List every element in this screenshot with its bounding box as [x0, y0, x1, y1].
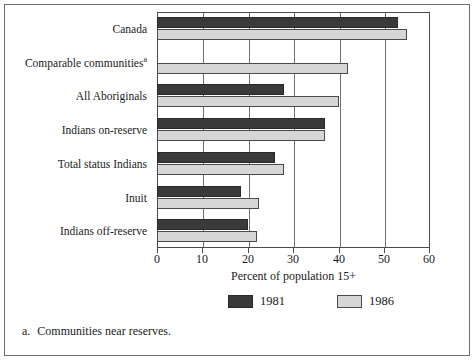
x-tick-label-0: 0 — [137, 252, 177, 266]
legend-label-1981: 1981 — [260, 295, 285, 308]
category-label-comparable-communities: Comparable communitiesa — [0, 57, 147, 69]
chart-figure: Canada Comparable communitiesa All Abori… — [0, 0, 475, 361]
bar-indians-off-reserve-1981 — [157, 219, 248, 230]
x-tick-label-20: 20 — [228, 252, 268, 266]
bar-all-aboriginals-1986 — [157, 96, 339, 107]
category-label-inuit: Inuit — [0, 192, 147, 204]
category-label-total-status-indians: Total status Indians — [0, 158, 147, 170]
x-tick-label-10: 10 — [182, 252, 222, 266]
bar-canada-1986 — [157, 29, 407, 40]
legend-swatch-1986 — [337, 295, 362, 308]
bar-total-status-indians-1986 — [157, 164, 284, 175]
legend-item-1986: 1986 — [337, 295, 394, 308]
bar-group-all-aboriginals — [157, 79, 430, 113]
figure-footnote: a.Communities near reserves. — [22, 324, 171, 339]
bar-inuit-1986 — [157, 198, 259, 209]
x-tick-label-40: 40 — [319, 252, 359, 266]
category-label-text: Comparable communities — [25, 57, 144, 69]
chart-legend: 1981 1986 — [0, 295, 475, 315]
bar-indians-on-reserve-1986 — [157, 130, 325, 141]
plot-wrapper: Canada Comparable communitiesa All Abori… — [0, 0, 475, 361]
category-label-text: Indians off-reserve — [60, 225, 147, 237]
bar-total-status-indians-1981 — [157, 152, 275, 163]
bar-all-aboriginals-1981 — [157, 84, 284, 95]
bar-comparable-communities-1986 — [157, 63, 348, 74]
bar-indians-off-reserve-1986 — [157, 231, 257, 242]
bar-group-comparable-communities — [157, 46, 430, 80]
bar-group-total-status-indians — [157, 147, 430, 181]
bar-rows — [157, 12, 430, 248]
category-label-indians-on-reserve: Indians on-reserve — [0, 124, 147, 136]
legend-swatch-1981 — [228, 295, 253, 308]
bar-group-indians-on-reserve — [157, 113, 430, 147]
category-label-canada: Canada — [0, 23, 147, 35]
bar-group-canada — [157, 12, 430, 46]
x-tick-label-60: 60 — [409, 252, 449, 266]
category-label-indians-off-reserve: Indians off-reserve — [0, 225, 147, 237]
footnote-marker: a. — [22, 324, 30, 338]
category-label-text: Canada — [113, 23, 147, 35]
category-label-text: Inuit — [125, 192, 147, 204]
legend-item-1981: 1981 — [228, 295, 285, 308]
x-tick-label-30: 30 — [273, 252, 313, 266]
category-label-text: Total status Indians — [58, 158, 147, 170]
bar-group-inuit — [157, 181, 430, 215]
category-label-text: All Aboriginals — [76, 90, 147, 102]
legend-label-1986: 1986 — [369, 295, 394, 308]
footnote-marker-superscript: a — [143, 55, 147, 64]
category-label-text: Indians on-reserve — [62, 124, 147, 136]
footnote-text: Communities near reserves. — [37, 324, 171, 338]
bar-canada-1981 — [157, 17, 398, 28]
category-label-all-aboriginals: All Aboriginals — [0, 90, 147, 102]
bar-group-indians-off-reserve — [157, 214, 430, 248]
category-axis-labels: Canada Comparable communitiesa All Abori… — [0, 12, 152, 248]
x-axis-title: Percent of population 15+ — [157, 269, 430, 283]
bar-inuit-1981 — [157, 186, 241, 197]
x-axis-tick-labels: 0 10 20 30 40 50 60 — [0, 252, 475, 268]
x-tick-label-50: 50 — [364, 252, 404, 266]
bar-indians-on-reserve-1981 — [157, 118, 325, 129]
